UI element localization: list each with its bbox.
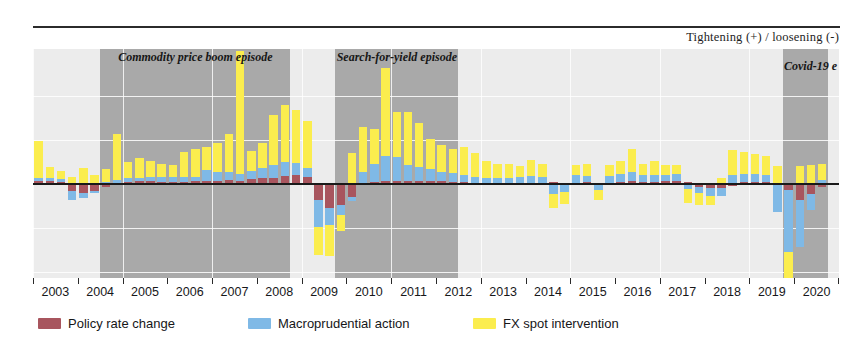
chart-legend: Policy rate changeMacroprudential action… [33,316,839,336]
bar-segment-macroprudential-action [605,176,614,183]
bar-segment-macroprudential-action [191,177,200,181]
bar-column [124,49,133,278]
bar-segment-macroprudential-action [79,193,88,198]
bar-segment-fx-spot-intervention [605,165,614,176]
bar-column [538,49,547,278]
bar-segment-fx-spot-intervention [236,51,245,174]
bar-segment-fx-spot-intervention [169,165,178,177]
x-axis-tick [302,278,303,284]
bar-segment-macroprudential-action [337,205,346,215]
bar-segment-fx-spot-intervention [672,165,681,174]
bar-column [807,49,816,278]
bar-segment-fx-spot-intervention [661,165,670,175]
bar-segment-fx-spot-intervention [505,164,514,177]
x-axis-tick [436,278,437,284]
bar-column [650,49,659,278]
bar-segment-macroprudential-action [348,197,357,201]
bar-column [527,49,536,278]
x-axis-label-2008: 2008 [265,285,293,299]
x-axis-label-2015: 2015 [579,285,607,299]
bar-segment-fx-spot-intervention [381,68,390,156]
legend-item-macroprudential[interactable]: Macroprudential action [248,316,410,331]
bar-column [695,49,704,278]
legend-swatch-fx [473,318,496,329]
bar-segment-macroprudential-action [661,175,670,181]
bar-segment-fx-spot-intervention [740,152,749,174]
bar-segment-macroprudential-action [90,191,99,194]
bar-segment-fx-spot-intervention [247,151,256,172]
x-axis-label-2010: 2010 [355,285,383,299]
bar-segment-macroprudential-action [157,177,166,182]
bar-column [157,49,166,278]
bar-segment-macroprudential-action [314,200,323,226]
bar-segment-policy-rate-change [807,184,816,194]
bar-segment-macroprudential-action [34,178,43,182]
episode-label-2: Search-for-yield episode [337,50,457,65]
bar-column [616,49,625,278]
bar-segment-fx-spot-intervention [594,190,603,200]
bar-segment-macroprudential-action [616,174,625,182]
bar-column [796,49,805,278]
bar-column [583,49,592,278]
bar-column [247,49,256,278]
bar-segment-macroprudential-action [650,175,659,183]
legend-item-fx[interactable]: FX spot intervention [473,316,619,331]
bar-segment-macroprudential-action [258,168,267,177]
legend-label-policy: Policy rate change [68,316,175,331]
bar-column [46,49,55,278]
bar-segment-fx-spot-intervention [57,171,66,180]
x-axis-tick [705,278,706,284]
x-axis-label-2007: 2007 [221,285,249,299]
bar-segment-fx-spot-intervention [807,165,816,184]
bar-column [337,49,346,278]
bar-column [314,49,323,278]
bar-segment-macroprudential-action [583,176,592,182]
bar-segment-fx-spot-intervention [560,192,569,204]
bar-segment-fx-spot-intervention [303,121,312,168]
bar-column [381,49,390,278]
bar-column [202,49,211,278]
x-axis-label-2016: 2016 [624,285,652,299]
bar-segment-fx-spot-intervention [784,252,793,278]
bar-segment-fx-spot-intervention [493,164,502,179]
bar-segment-macroprudential-action [639,175,648,181]
bar-segment-fx-spot-intervention [46,167,55,177]
bar-column [180,49,189,278]
bar-segment-macroprudential-action [247,171,256,178]
bar-segment-macroprudential-action [169,177,178,182]
bar-segment-fx-spot-intervention [314,227,323,255]
bar-segment-macroprudential-action [460,175,469,182]
bar-segment-fx-spot-intervention [225,134,234,172]
bar-column [79,49,88,278]
x-axis-label-2009: 2009 [310,285,338,299]
bar-column [639,49,648,278]
bar-column [281,49,290,278]
axis-note-tightening-loosening: Tightening (+) / loosening (-) [686,30,839,45]
bar-column [236,49,245,278]
bar-segment-macroprudential-action [404,165,413,181]
bar-segment-fx-spot-intervention [684,189,693,202]
bar-segment-fx-spot-intervention [359,127,368,173]
bar-column [169,49,178,278]
bar-segment-fx-spot-intervention [102,169,111,182]
bar-segment-fx-spot-intervention [773,166,782,182]
bar-segment-fx-spot-intervention [404,112,413,165]
bar-segment-macroprudential-action [560,184,569,192]
bar-segment-fx-spot-intervention [572,165,581,175]
bar-column [269,49,278,278]
bar-column [437,49,446,278]
x-axis-tick [794,278,795,284]
bar-segment-macroprudential-action [57,179,66,181]
x-axis-label-2017: 2017 [668,285,696,299]
x-axis-label-2006: 2006 [176,285,204,299]
legend-label-fx: FX spot intervention [503,316,619,331]
plot-area: Commodity price boom episodeSearch-for-y… [33,49,839,278]
bar-segment-macroprudential-action [135,178,144,181]
bar-segment-macroprudential-action [393,157,402,180]
bar-segment-macroprudential-action [202,170,211,180]
x-axis-label-2003: 2003 [41,285,69,299]
bar-segment-macroprudential-action [740,174,749,182]
bar-segment-macroprudential-action [784,190,793,252]
bar-column [325,49,334,278]
legend-item-policy[interactable]: Policy rate change [38,316,175,331]
